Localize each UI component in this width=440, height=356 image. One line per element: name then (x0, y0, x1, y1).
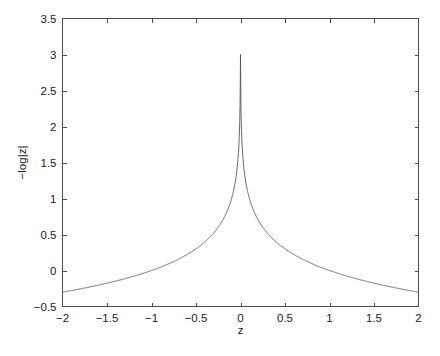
x-tick-label: 1.5 (366, 312, 382, 324)
plot-chart: −2−1.5−1−0.500.511.52 −0.500.511.522.533… (0, 0, 440, 356)
x-axis-label: z (238, 324, 244, 336)
y-tick-label: 2.5 (41, 85, 57, 97)
y-tick-label: 0 (50, 265, 56, 277)
y-tick-label: 1 (50, 193, 56, 205)
y-tick-label: 3 (50, 49, 56, 61)
x-tick-label: −1.5 (96, 312, 119, 324)
x-tick-label: 2 (415, 312, 421, 324)
y-tick-label: 2 (50, 121, 56, 133)
y-tick-label: −0.5 (34, 301, 57, 313)
y-tick-label: 0.5 (41, 229, 57, 241)
x-tick-label: 0.5 (277, 312, 293, 324)
x-tick-label: −1 (145, 312, 158, 324)
y-axis-label: −log|z| (16, 146, 28, 180)
x-tick-label: −2 (56, 312, 69, 324)
x-axis-tick-labels: −2−1.5−1−0.500.511.52 (56, 312, 422, 324)
y-tick-label: 1.5 (41, 157, 57, 169)
y-tick-label: 3.5 (41, 13, 57, 25)
x-tick-label: −0.5 (185, 312, 208, 324)
figure-canvas: −2−1.5−1−0.500.511.52 −0.500.511.522.533… (0, 0, 440, 356)
x-tick-label: 1 (326, 312, 332, 324)
x-tick-label: 0 (237, 312, 243, 324)
